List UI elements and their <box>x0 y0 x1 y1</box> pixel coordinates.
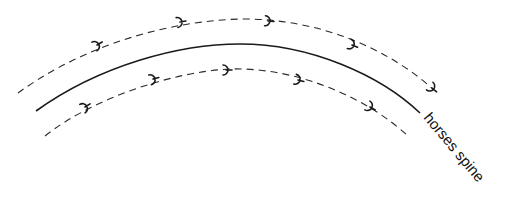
hoofprint-icon <box>149 73 160 85</box>
hoofprint-icon <box>223 65 232 75</box>
outer-hoof-track <box>18 19 434 93</box>
inner-hoof-track <box>45 69 409 137</box>
hoofprint-icon <box>92 38 105 51</box>
hoofprint-icon <box>426 82 439 95</box>
horse-spine-line <box>36 44 420 113</box>
hoofprint-icon <box>365 101 378 114</box>
horse-spine-diagram: horses spine <box>0 0 514 207</box>
hoofprint-icon <box>80 100 93 113</box>
outer-hoofprints <box>92 16 440 96</box>
hoofprint-icon <box>265 16 275 27</box>
spine-label: horses spine <box>421 109 489 185</box>
hoofprint-icon <box>347 39 359 52</box>
